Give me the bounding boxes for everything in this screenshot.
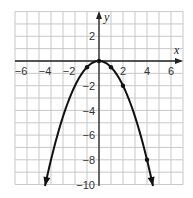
data-point [85, 65, 89, 69]
x-tick: 2 [120, 65, 126, 77]
parabola-chart: x y −6 −4 −2 2 4 6 2 −2 −4 −6 −8 −10 [0, 0, 193, 198]
x-tick: 6 [168, 65, 174, 77]
x-axis-arrow-icon [175, 58, 183, 64]
y-tick: −10 [76, 179, 95, 191]
data-point [145, 158, 149, 162]
y-axis-label: y [103, 10, 110, 24]
x-tick: −6 [15, 65, 28, 77]
data-point [109, 65, 113, 69]
y-tick: −6 [82, 129, 95, 141]
y-tick: −2 [82, 80, 95, 92]
x-axis-label: x [173, 43, 180, 57]
x-tick: −2 [63, 65, 76, 77]
y-tick: −4 [82, 105, 95, 117]
data-point [121, 84, 125, 88]
y-tick: −8 [82, 154, 95, 166]
x-tick: 4 [144, 65, 150, 77]
y-axis-arrow-icon [96, 11, 102, 19]
y-tick: 2 [89, 30, 95, 42]
data-point [97, 59, 101, 63]
x-tick: −4 [39, 65, 52, 77]
